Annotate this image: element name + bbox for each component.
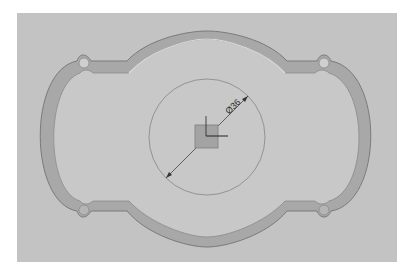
part-drawing: Ø36: [17, 13, 397, 262]
boss-top-left: [79, 58, 89, 68]
cad-viewport[interactable]: Ø36: [17, 13, 397, 262]
boss-top-right: [319, 58, 329, 68]
boss-bottom-left: [79, 205, 89, 215]
boss-bottom-right: [319, 205, 329, 215]
